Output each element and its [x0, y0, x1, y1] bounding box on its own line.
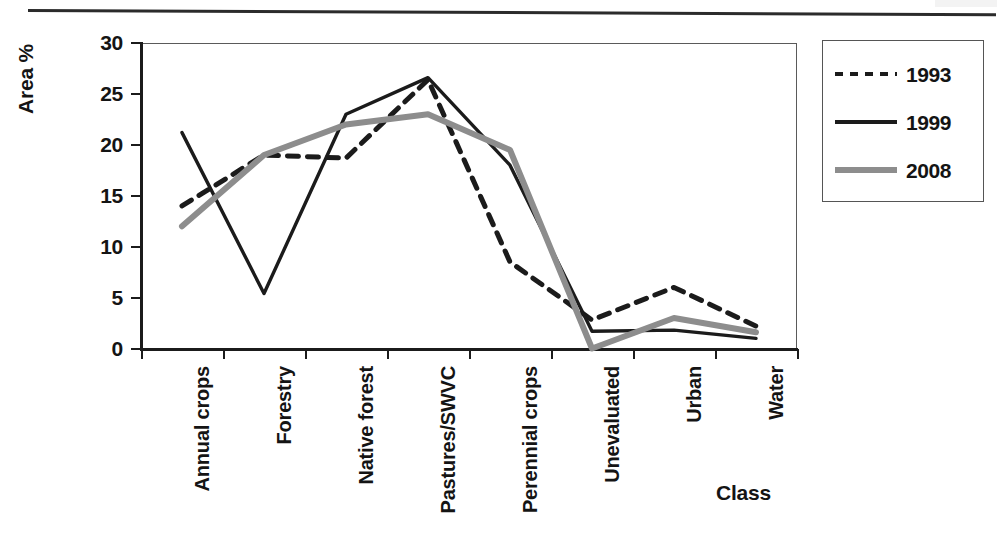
- legend-entry-2008: 2008: [835, 157, 975, 183]
- legend-label: 1993: [906, 64, 951, 85]
- y-tick-label: 5: [89, 287, 123, 308]
- y-tick-label: 30: [89, 32, 123, 53]
- y-tick-label: 25: [89, 83, 123, 104]
- gray-line-swatch: [835, 167, 897, 173]
- x-tick-label: Native forest: [355, 366, 378, 485]
- x-tick: [223, 349, 225, 359]
- x-tick-label: Annual crops: [191, 366, 214, 491]
- x-tick-label: Pastures/SWVC: [437, 366, 460, 513]
- y-tick: [131, 348, 141, 350]
- x-tick-label: Forestry: [273, 366, 296, 444]
- y-tick-label: 0: [89, 338, 123, 359]
- x-tick: [797, 349, 799, 359]
- y-axis-title: Area %: [14, 44, 38, 114]
- x-tick-label: Perennial crops: [519, 366, 542, 513]
- y-tick: [131, 297, 141, 299]
- legend-entry-1999: 1999: [835, 109, 975, 135]
- legend-label: 1999: [906, 112, 951, 133]
- y-tick: [131, 195, 141, 197]
- x-tick: [387, 349, 389, 359]
- legend-label: 2008: [906, 160, 951, 181]
- chart-legend: 1993 1999 2008: [822, 40, 984, 202]
- line-chart: 051015202530 Annual cropsForestryNative …: [0, 0, 1001, 542]
- y-tick: [131, 42, 141, 44]
- x-tick-label: Urban: [683, 366, 706, 423]
- y-tick-label: 20: [89, 134, 123, 155]
- x-tick: [141, 349, 143, 359]
- dashed-line-swatch: [835, 72, 897, 77]
- plot-frame: [141, 43, 797, 349]
- y-tick-label: 15: [89, 185, 123, 206]
- y-tick: [131, 246, 141, 248]
- x-tick: [551, 349, 553, 359]
- y-tick-label: 10: [89, 236, 123, 257]
- x-tick-label: Unevaluated: [601, 366, 624, 483]
- x-tick: [305, 349, 307, 359]
- y-tick: [131, 93, 141, 95]
- x-axis-title: Class: [716, 481, 771, 505]
- solid-line-swatch: [835, 120, 897, 125]
- x-tick: [633, 349, 635, 359]
- legend-entry-1993: 1993: [835, 61, 975, 87]
- x-tick: [469, 349, 471, 359]
- x-tick-label: Water: [765, 366, 788, 420]
- y-tick: [131, 144, 141, 146]
- x-tick: [715, 349, 717, 359]
